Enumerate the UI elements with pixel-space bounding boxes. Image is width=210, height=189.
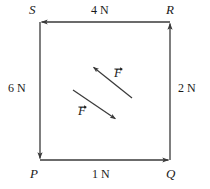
vertex-label-p: P	[30, 167, 38, 180]
edge-magnitude-top: 4 N	[91, 4, 109, 16]
force-vector-upper	[94, 67, 133, 98]
force-diagram: S R P Q 4 N 2 N 6 N 1 N F F	[0, 0, 210, 189]
vertex-label-s: S	[29, 3, 36, 16]
vector-arrow-icon	[78, 104, 87, 109]
force-label-upper: F	[114, 66, 122, 79]
edge-magnitude-right: 2 N	[178, 82, 196, 94]
vertex-label-q: Q	[166, 167, 175, 180]
vector-arrow-icon	[114, 66, 123, 71]
edge-magnitude-bottom: 1 N	[92, 168, 110, 180]
edge-magnitude-left: 6 N	[8, 82, 26, 94]
force-label-lower: F	[78, 104, 86, 117]
vertex-label-r: R	[166, 3, 174, 16]
